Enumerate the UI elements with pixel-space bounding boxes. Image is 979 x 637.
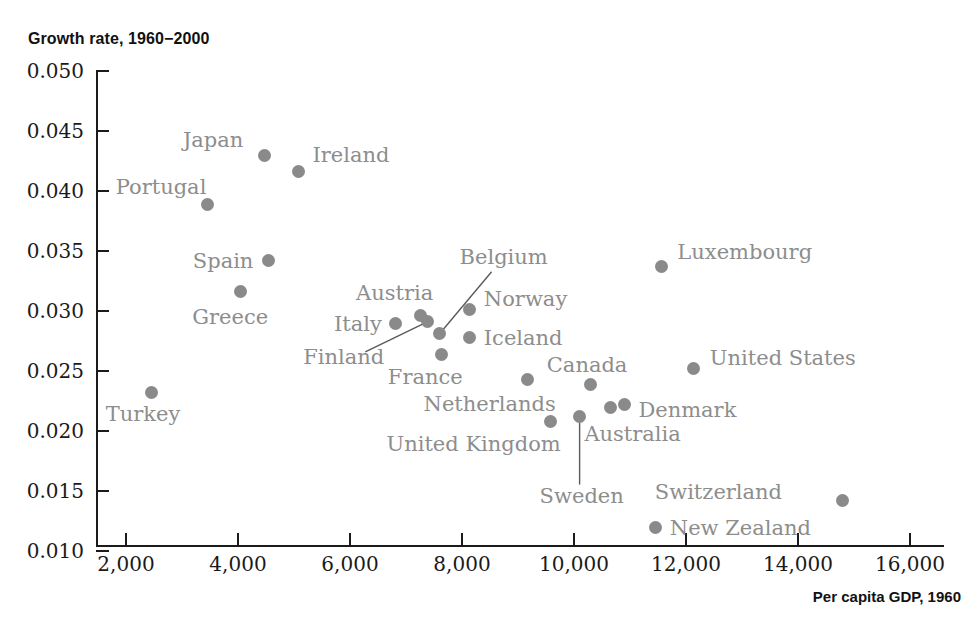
y-axis-title: Growth rate, 1960−2000 (28, 30, 209, 48)
data-point-ireland[interactable] (292, 165, 305, 178)
y-tick-label: 0.040 (10, 181, 84, 201)
x-tick-label: 16,000 (850, 553, 970, 575)
data-point-france[interactable] (435, 348, 448, 361)
data-point-canada[interactable] (584, 378, 597, 391)
x-tick-label: 10,000 (514, 553, 634, 575)
point-label-australia: Australia (584, 424, 680, 445)
y-tick (96, 70, 109, 72)
data-point-united-kingdom[interactable] (544, 415, 557, 428)
y-tick (96, 250, 109, 252)
point-label-turkey: Turkey (106, 404, 181, 425)
data-point-greece[interactable] (234, 285, 247, 298)
y-tick-label: 0.035 (10, 241, 84, 261)
data-point-new-zealand[interactable] (649, 521, 662, 534)
y-tick (96, 190, 109, 192)
point-label-denmark: Denmark (638, 400, 736, 421)
data-point-turkey[interactable] (145, 386, 158, 399)
point-label-greece: Greece (192, 307, 268, 328)
point-label-norway: Norway (484, 289, 567, 310)
y-tick-label: 0.030 (10, 301, 84, 321)
y-tick-label: 0.045 (10, 121, 84, 141)
data-point-iceland[interactable] (463, 331, 476, 344)
point-label-portugal: Portugal (116, 177, 207, 198)
y-tick-label: 0.015 (10, 481, 84, 501)
y-tick (96, 370, 109, 372)
x-tick-label: 12,000 (626, 553, 746, 575)
point-label-france: France (388, 367, 463, 388)
data-point-finland[interactable] (421, 315, 434, 328)
x-axis-line (96, 545, 944, 547)
point-label-finland: Finland (303, 347, 384, 368)
y-tick (96, 310, 109, 312)
point-label-united-states: United States (710, 348, 856, 369)
point-label-japan: Japan (183, 130, 243, 151)
data-point-united-states[interactable] (687, 362, 700, 375)
data-point-japan[interactable] (258, 149, 271, 162)
y-tick (96, 130, 109, 132)
point-label-sweden: Sweden (540, 486, 624, 507)
data-point-switzerland[interactable] (836, 494, 849, 507)
scatter-plot: Growth rate, 1960−2000 0.0500.0450.0400.… (0, 0, 979, 637)
data-point-netherlands[interactable] (521, 373, 534, 386)
data-point-norway[interactable] (463, 303, 476, 316)
point-label-belgium: Belgium (460, 247, 548, 268)
x-tick-label: 14,000 (738, 553, 858, 575)
x-tick (237, 533, 239, 546)
point-label-luxembourg: Luxembourg (677, 242, 812, 263)
x-tick-label: 8,000 (402, 553, 522, 575)
point-label-switzerland: Switzerland (655, 482, 782, 503)
data-point-italy[interactable] (389, 317, 402, 330)
point-label-canada: Canada (547, 355, 628, 376)
point-label-iceland: Iceland (484, 328, 563, 349)
y-tick (96, 490, 109, 492)
y-tick-label: 0.050 (10, 61, 84, 81)
x-tick-label: 6,000 (290, 553, 410, 575)
point-label-new-zealand: New Zealand (670, 518, 811, 539)
data-point-australia[interactable] (604, 401, 617, 414)
point-label-ireland: Ireland (312, 145, 389, 166)
point-label-austria: Austria (356, 283, 433, 304)
x-tick (125, 533, 127, 546)
point-label-spain: Spain (193, 251, 254, 272)
x-tick-label: 2,000 (66, 553, 186, 575)
data-point-portugal[interactable] (201, 198, 214, 211)
data-point-luxembourg[interactable] (655, 260, 668, 273)
leader-lines (0, 0, 979, 637)
data-point-belgium[interactable] (433, 327, 446, 340)
point-label-united-kingdom: United Kingdom (386, 434, 560, 455)
x-axis-title: Per capita GDP, 1960 (813, 588, 961, 605)
point-label-netherlands: Netherlands (424, 394, 556, 415)
y-tick-label: 0.020 (10, 421, 84, 441)
y-tick (96, 430, 109, 432)
x-tick (909, 533, 911, 546)
x-tick (461, 533, 463, 546)
y-axis-line (96, 70, 98, 546)
x-tick (573, 533, 575, 546)
data-point-denmark[interactable] (618, 398, 631, 411)
y-tick-label: 0.025 (10, 361, 84, 381)
point-label-italy: Italy (334, 314, 382, 335)
x-tick-label: 4,000 (178, 553, 298, 575)
x-tick (349, 533, 351, 546)
data-point-spain[interactable] (262, 254, 275, 267)
